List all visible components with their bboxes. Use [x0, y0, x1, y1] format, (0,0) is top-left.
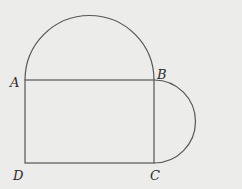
label-b: B [156, 67, 167, 82]
label-c: C [150, 168, 160, 183]
label-d: D [12, 168, 24, 183]
semicircle-bc [154, 80, 195, 163]
label-a: A [9, 75, 19, 90]
rectangle-abcd [25, 80, 154, 163]
geometry-figure: A B C D [0, 0, 242, 189]
semicircle-ab [25, 16, 154, 81]
